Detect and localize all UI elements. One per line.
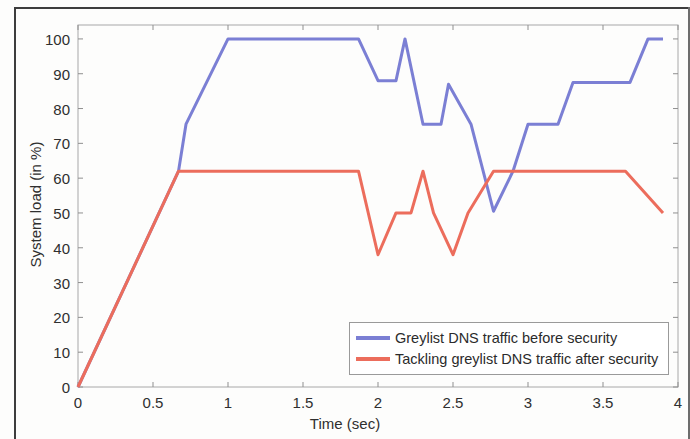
y-axis-title: System load (in %) <box>27 80 44 330</box>
y-tick-label: 0 <box>22 379 70 396</box>
x-tick-label: 3 <box>524 394 532 411</box>
x-axis-title: Time (sec) <box>0 415 690 432</box>
x-tick-label: 3.5 <box>593 394 614 411</box>
x-tick-label: 2 <box>374 394 382 411</box>
legend-label-after: Tackling greylist DNS traffic after secu… <box>395 351 658 367</box>
legend-swatch-after <box>356 357 390 361</box>
scanned-page: 0102030405060708090100 00.511.522.533.54… <box>0 0 690 439</box>
x-tick-label: 0 <box>74 394 82 411</box>
legend-swatch-before <box>356 336 390 340</box>
x-tick-label: 0.5 <box>143 394 164 411</box>
legend-item: Tackling greylist DNS traffic after secu… <box>356 348 662 369</box>
y-tick-label: 10 <box>22 344 70 361</box>
chart-legend: Greylist DNS traffic before security Tac… <box>349 322 669 375</box>
line-chart-figure: 0102030405060708090100 00.511.522.533.54… <box>0 0 690 439</box>
y-tick-label: 100 <box>22 30 70 47</box>
x-tick-label: 2.5 <box>443 394 464 411</box>
legend-item: Greylist DNS traffic before security <box>356 327 662 348</box>
x-tick-label: 4 <box>674 394 682 411</box>
x-tick-label: 1 <box>224 394 232 411</box>
legend-label-before: Greylist DNS traffic before security <box>395 330 617 346</box>
x-tick-label: 1.5 <box>293 394 314 411</box>
